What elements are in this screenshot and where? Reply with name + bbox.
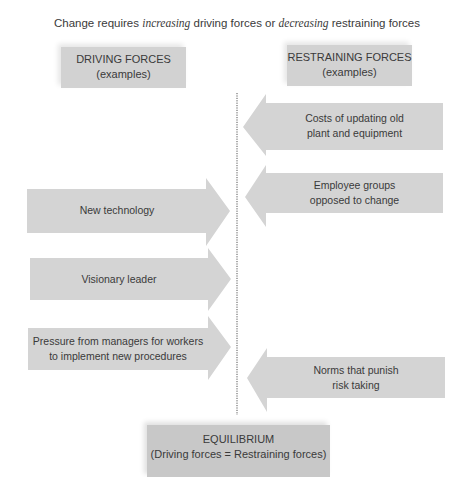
label-line: Norms that punish	[267, 363, 445, 378]
driving-force-label: Pressure from managers for workers to im…	[28, 334, 208, 364]
equilibrium-label: EQUILIBRIUM	[147, 432, 330, 447]
label-line: Costs of updating old	[266, 111, 443, 126]
label-line: Employee groups	[266, 178, 443, 193]
restraining-force-label: Employee groups opposed to change	[266, 178, 443, 208]
label-line: risk taking	[267, 378, 445, 393]
driving-force-label: New technology	[27, 203, 207, 218]
driving-force-label: Visionary leader	[30, 272, 208, 287]
label-line: opposed to change	[266, 193, 443, 208]
restraining-force-label: Costs of updating old plant and equipmen…	[266, 111, 443, 141]
label-line: plant and equipment	[266, 126, 443, 141]
equilibrium-sublabel: (Driving forces = Restraining forces)	[147, 447, 330, 462]
label-line: Visionary leader	[30, 272, 208, 287]
equilibrium-box: EQUILIBRIUM (Driving forces = Restrainin…	[147, 425, 330, 477]
label-line: New technology	[27, 203, 207, 218]
restraining-force-label: Norms that punish risk taking	[267, 363, 445, 393]
label-line: Pressure from managers for workers	[28, 334, 208, 349]
label-line: to implement new procedures	[28, 349, 208, 364]
